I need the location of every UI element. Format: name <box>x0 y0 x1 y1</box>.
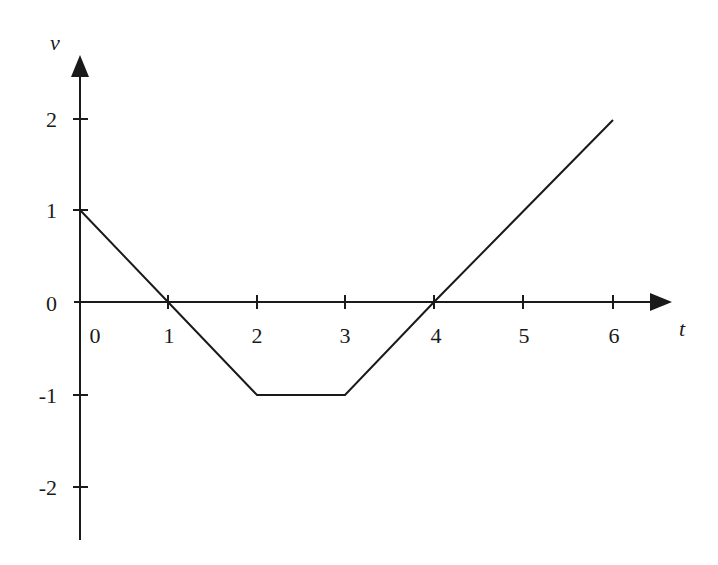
x-tick-label: 2 <box>252 323 263 348</box>
x-axis-arrow-icon <box>650 293 672 311</box>
x-axis-label: t <box>679 316 686 341</box>
y-tick-label: -1 <box>39 383 57 408</box>
x-tick-label: 6 <box>609 323 620 348</box>
y-tick-label: 2 <box>46 107 57 132</box>
y-axis-label: v <box>50 30 60 55</box>
x-tick-label: 4 <box>431 323 442 348</box>
y-tick-label: 1 <box>46 198 57 223</box>
x-tick-label: 1 <box>164 323 175 348</box>
x-tick-label: 5 <box>519 323 530 348</box>
y-axis-arrow-icon <box>71 55 89 77</box>
velocity-time-chart: v t 2 1 0 -1 -2 0 1 2 3 4 5 6 <box>0 0 718 565</box>
y-tick-label: 0 <box>46 291 57 316</box>
x-tick-label: 0 <box>90 323 101 348</box>
y-tick-label: -2 <box>39 475 57 500</box>
x-tick-label: 3 <box>340 323 351 348</box>
velocity-line <box>80 120 613 395</box>
